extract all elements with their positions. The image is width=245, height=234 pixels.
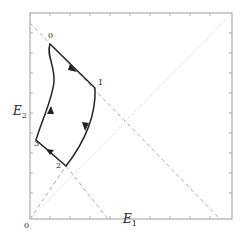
point-label-0: 0 <box>48 32 53 40</box>
cycle-curve <box>36 44 95 166</box>
y-axis-label-text: E <box>13 104 22 118</box>
diagram-canvas <box>0 0 245 234</box>
dashed-line-origin <box>30 166 66 219</box>
point-label-3: 3 <box>34 140 39 148</box>
origin-label: 0 <box>24 222 29 230</box>
x-axis-label-text: E <box>123 212 132 226</box>
diagonal-dotted-line <box>30 13 232 219</box>
x-axis-label: E1 <box>123 213 137 228</box>
y-axis-label-sub: 2 <box>22 111 27 120</box>
dashed-line-lower <box>66 166 108 219</box>
phase-diagram: 0 1 2 3 0 E1 E2 <box>0 0 245 234</box>
y-axis-label: E2 <box>13 105 27 120</box>
x-axis-label-sub: 1 <box>132 219 137 228</box>
point-label-1: 1 <box>98 79 103 87</box>
point-label-2: 2 <box>56 162 61 170</box>
